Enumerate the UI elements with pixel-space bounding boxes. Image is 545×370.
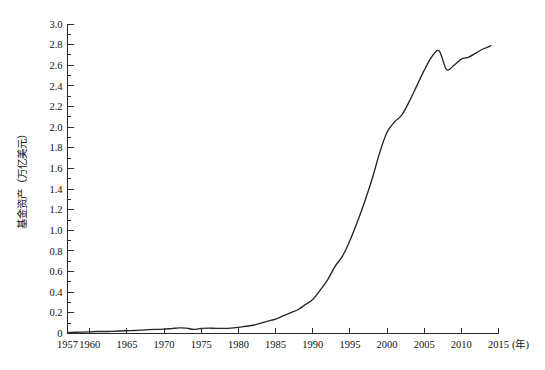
y-tick-label: 2.0 xyxy=(49,122,62,133)
y-tick-label: 1.2 xyxy=(49,204,62,215)
y-axis-title: 基金资产（万亿美元） xyxy=(16,129,28,229)
y-tick-label: 2.2 xyxy=(49,101,62,112)
x-tick-label: 1995 xyxy=(339,339,360,350)
x-tick-label: 2010 xyxy=(451,339,472,350)
plot-background xyxy=(0,0,545,370)
x-tick-label: 1985 xyxy=(265,339,286,350)
y-tick-label: 2.8 xyxy=(49,39,62,50)
y-tick-label: 2.6 xyxy=(49,60,62,71)
x-tick-label: 1957 xyxy=(57,339,78,350)
y-tick-label: 3.0 xyxy=(49,19,62,30)
x-tick-label: 1970 xyxy=(154,339,175,350)
x-tick-label: 1990 xyxy=(302,339,323,350)
y-tick-label: 0 xyxy=(57,328,62,339)
y-tick-label: 0.8 xyxy=(49,246,62,257)
y-tick-label: 1.0 xyxy=(49,225,62,236)
y-tick-label: 1.6 xyxy=(49,163,62,174)
y-tick-label: 0.2 xyxy=(49,307,62,318)
y-tick-label: 1.8 xyxy=(49,142,62,153)
x-tick-label: 1975 xyxy=(191,339,212,350)
x-tick-label: 1965 xyxy=(116,339,137,350)
x-tick-label: 2000 xyxy=(377,339,398,350)
x-tick-label: 2005 xyxy=(414,339,435,350)
x-tick-label: 2015 xyxy=(488,339,509,350)
y-tick-label: 0.4 xyxy=(49,287,63,298)
x-axis-unit-label: (年) xyxy=(512,338,529,351)
x-tick-label: 1960 xyxy=(79,339,100,350)
chart-container: 3.02.82.62.42.22.01.81.61.41.21.00.80.60… xyxy=(0,0,545,370)
y-tick-label: 2.4 xyxy=(49,81,63,92)
y-tick-label: 0.6 xyxy=(49,266,62,277)
y-tick-label: 1.4 xyxy=(49,184,63,195)
line-chart: 3.02.82.62.42.22.01.81.61.41.21.00.80.60… xyxy=(0,0,545,370)
x-tick-label: 1980 xyxy=(228,339,249,350)
